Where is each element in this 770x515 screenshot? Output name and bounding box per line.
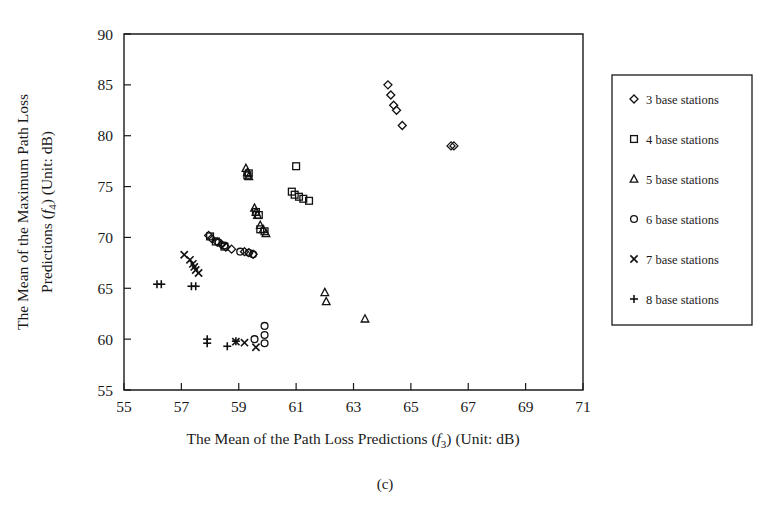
data-point [223, 342, 231, 350]
data-point [296, 193, 303, 200]
series-7-base-stations [181, 251, 260, 351]
data-point [293, 163, 300, 170]
legend-box [612, 75, 752, 325]
data-point [261, 340, 268, 347]
data-point [157, 280, 165, 288]
x-tick-label: 61 [288, 398, 304, 415]
legend: 3 base stations4 base stations5 base sta… [612, 75, 752, 325]
y-tick-label: 60 [98, 331, 114, 348]
x-axis-ticks: 555759616365676971 [116, 383, 591, 415]
data-point [251, 336, 258, 343]
legend-label: 7 base stations [646, 253, 719, 267]
legend-marker-cross-icon [630, 255, 637, 262]
data-point [186, 256, 193, 263]
x-tick-label: 69 [518, 398, 534, 415]
data-points-layer [153, 81, 458, 351]
legend-item-8-base-stations[interactable]: 8 base stations [630, 293, 719, 307]
legend-item-5-base-stations[interactable]: 5 base stations [630, 173, 719, 187]
y-axis-label-line1: The Mean of the Maximum Path Loss [14, 94, 31, 330]
data-point [241, 339, 248, 346]
y-axis-ticks: 5560657075808590 [98, 26, 132, 399]
legend-label: 5 base stations [646, 173, 719, 187]
x-tick-label: 59 [231, 398, 247, 415]
y-axis-label-line2: Predictions (f4) (Unit: dB) [38, 131, 58, 293]
series-6-base-stations [215, 239, 268, 346]
y-tick-label: 65 [98, 280, 114, 297]
y-tick-label: 90 [98, 26, 114, 43]
data-point [261, 332, 268, 339]
data-point [252, 344, 259, 351]
data-point [384, 81, 392, 89]
legend-marker-diamond-icon [630, 95, 638, 103]
x-tick-label: 71 [575, 398, 591, 415]
legend-marker-triangle-icon [630, 175, 638, 182]
data-point [203, 339, 211, 347]
data-point [398, 122, 406, 130]
legend-marker-plus-icon [630, 295, 638, 303]
legend-label: 6 base stations [646, 213, 719, 227]
x-tick-label: 63 [346, 398, 362, 415]
y-tick-label: 85 [98, 76, 114, 93]
legend-label: 3 base stations [646, 93, 719, 107]
legend-marker-square-icon [631, 136, 638, 143]
y-tick-label: 75 [98, 178, 114, 195]
series-8-base-stations [153, 280, 240, 350]
legend-label: 8 base stations [646, 293, 719, 307]
data-point [447, 142, 455, 150]
legend-item-6-base-stations[interactable]: 6 base stations [631, 213, 719, 227]
series-4-base-stations [207, 163, 313, 250]
y-tick-label: 70 [98, 229, 114, 246]
legend-marker-circle-icon [631, 216, 638, 223]
data-point [195, 269, 202, 276]
legend-item-3-base-stations[interactable]: 3 base stations [630, 93, 719, 107]
data-point [450, 142, 458, 150]
figure-container: 5560657075808590 555759616365676971 3 ba… [0, 0, 770, 515]
legend-item-4-base-stations[interactable]: 4 base stations [631, 133, 719, 147]
data-point [387, 91, 395, 99]
x-tick-label: 55 [116, 398, 132, 415]
data-point [393, 106, 401, 114]
figure-caption: (c) [377, 476, 394, 493]
legend-label: 4 base stations [646, 133, 719, 147]
data-point [192, 282, 200, 290]
y-tick-label: 55 [98, 382, 114, 399]
data-point [361, 315, 369, 322]
data-point [321, 288, 329, 295]
x-tick-label: 65 [403, 398, 419, 415]
x-tick-label: 67 [461, 398, 477, 415]
data-point [322, 298, 330, 305]
legend-item-7-base-stations[interactable]: 7 base stations [630, 253, 719, 267]
series-5-base-stations [242, 164, 369, 322]
x-tick-label: 57 [174, 398, 190, 415]
plot-frame [124, 34, 583, 390]
data-point [390, 101, 398, 109]
y-tick-label: 80 [98, 127, 114, 144]
data-point [261, 323, 268, 330]
x-axis-label: The Mean of the Path Loss Predictions (f… [186, 430, 519, 450]
scatter-plot: 5560657075808590 555759616365676971 3 ba… [0, 0, 770, 515]
